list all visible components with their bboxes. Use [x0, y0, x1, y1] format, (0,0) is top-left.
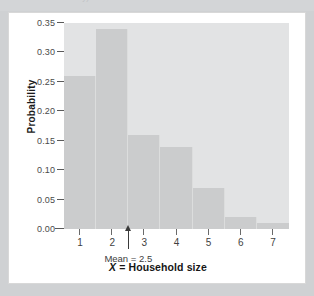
plot-area: [64, 23, 289, 229]
bar: [193, 188, 225, 229]
y-axis-tick-label: 0.20: [37, 106, 64, 116]
y-axis-tick: 0.15: [9, 136, 64, 146]
y-axis-tick: 0.10: [9, 165, 64, 175]
y-axis-tick-label: 0.30: [37, 47, 64, 57]
y-axis-tick-label: 0.05: [37, 195, 64, 205]
bar: [128, 135, 160, 229]
y-axis-tick-mark: [57, 81, 64, 82]
y-axis-tick-label: 0.25: [37, 77, 64, 87]
y-axis-tick: 0.20: [9, 106, 64, 116]
y-axis-tick-label: 0.35: [37, 18, 64, 28]
bar: [96, 29, 128, 229]
y-axis-tick: 0.05: [9, 195, 64, 205]
y-axis-tick-mark: [57, 110, 64, 111]
y-axis-tick-mark: [57, 140, 64, 141]
x-axis-label: X = Household size: [9, 261, 307, 273]
y-axis-tick-mark: [57, 51, 64, 52]
chart-card: Probability 0.000.050.100.150.200.250.30…: [8, 12, 306, 284]
scan-top-sliver: the family): [0, 0, 314, 11]
bar-series: [64, 23, 289, 229]
bar: [64, 76, 96, 229]
cutoff-caption-text: the family): [52, 0, 89, 2]
y-axis-tick-mark: [57, 199, 64, 200]
y-axis-tick-label: 0.15: [37, 136, 64, 146]
mean-arrow-icon: [128, 229, 129, 249]
y-axis-tick-mark: [57, 22, 64, 23]
y-axis-tick: 0.25: [9, 77, 64, 87]
bar: [225, 217, 257, 229]
y-axis-tick-label: 0.10: [37, 165, 64, 175]
x-axis-label-text: = Household size: [116, 261, 207, 273]
y-axis-tick: 0.30: [9, 47, 64, 57]
y-axis-tick: 0.35: [9, 18, 64, 28]
y-axis-tick-mark: [57, 169, 64, 170]
bar: [160, 147, 192, 229]
